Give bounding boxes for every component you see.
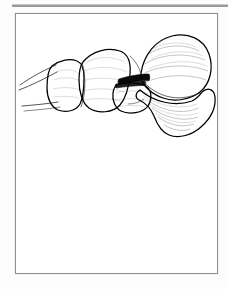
metatarsal-head xyxy=(141,35,211,101)
metatarsal-shaft xyxy=(136,89,215,137)
sesamoid xyxy=(113,83,151,113)
distal-phalanx-tip xyxy=(19,65,60,111)
figure-caption xyxy=(16,153,217,273)
anatomical-illustration xyxy=(16,18,219,153)
distal-phalanx xyxy=(47,60,84,112)
figure-panel xyxy=(15,13,218,274)
section-divider xyxy=(12,4,228,7)
